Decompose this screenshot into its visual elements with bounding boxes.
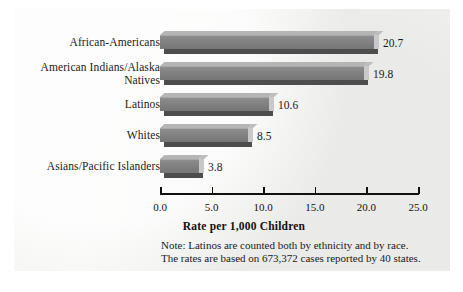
category-label-2: Latinos (0, 98, 160, 111)
value-label-0: 20.7 (383, 37, 403, 49)
bar-side-cap (364, 66, 369, 80)
x-axis-tick-label-5: 25.0 (398, 201, 438, 213)
bar-front-face (160, 128, 248, 142)
x-axis-tick-label-4: 20.0 (346, 201, 386, 213)
bar-latinos (160, 97, 269, 111)
x-axis-tick-1 (212, 187, 214, 194)
x-axis-tick-0 (160, 187, 162, 194)
chart-note: Note: Latinos are counted both by ethnic… (161, 239, 421, 265)
x-axis-tick-label-2: 10.0 (243, 201, 283, 213)
bar-bottom-shadow (164, 173, 203, 178)
bar-whites (160, 128, 248, 142)
value-label-1: 19.8 (373, 68, 393, 80)
category-label-1: American Indians/Alaska Natives (0, 61, 160, 86)
x-axis-line (160, 193, 419, 195)
bar-front-face (160, 159, 199, 173)
bar-african-americans (160, 35, 374, 49)
bar-front-face (160, 66, 364, 80)
bar-front-face (160, 35, 374, 49)
bar-front-face (160, 97, 269, 111)
chart-page: African-Americans American Indians/Alask… (0, 0, 463, 292)
x-axis-tick-label-1: 5.0 (192, 201, 232, 213)
bar-bottom-shadow (164, 49, 378, 54)
category-label-0: African-Americans (0, 36, 160, 49)
bar-side-cap (199, 159, 204, 173)
x-axis-tick-5 (418, 187, 420, 194)
x-axis-tick-2 (263, 187, 265, 194)
bar-side-cap (269, 97, 274, 111)
value-label-3: 8.5 (257, 130, 271, 142)
x-axis-tick-label-3: 15.0 (295, 201, 335, 213)
bar-american-indians-alaska-natives (160, 66, 364, 80)
bar-asians-pacific-islanders (160, 159, 199, 173)
bar-bottom-shadow (164, 111, 273, 116)
value-label-2: 10.6 (278, 99, 298, 111)
bar-side-cap (248, 128, 253, 142)
bar-bottom-shadow (164, 142, 252, 147)
x-axis-tick-4 (366, 187, 368, 194)
category-label-4: Asians/Pacific Islanders (0, 160, 160, 173)
bar-side-cap (374, 35, 379, 49)
x-axis-title: Rate per 1,000 Children (26, 220, 462, 232)
chart-panel: African-Americans American Indians/Alask… (14, 9, 450, 271)
value-label-4: 3.8 (208, 161, 222, 173)
category-label-3: Whites (0, 129, 160, 142)
x-axis-tick-label-0: 0.0 (140, 201, 180, 213)
bar-chart: African-Americans American Indians/Alask… (14, 9, 450, 271)
x-axis-tick-3 (315, 187, 317, 194)
bar-bottom-shadow (164, 80, 368, 85)
